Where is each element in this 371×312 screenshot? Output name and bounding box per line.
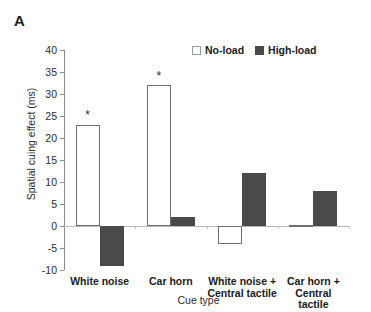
bar-no-load-group-2: [147, 85, 171, 226]
y-tick-label: 20: [45, 133, 57, 144]
y-tick-label: 25: [45, 111, 57, 122]
y-tick-mark: [60, 116, 64, 117]
significance-asterisk: *: [85, 109, 90, 121]
y-tick-label: 15: [45, 155, 57, 166]
y-tick-mark: [60, 204, 64, 205]
group-separator: [278, 226, 279, 229]
y-tick-mark: [60, 226, 64, 227]
group-separator: [349, 226, 350, 229]
y-tick-label: 30: [45, 89, 57, 100]
y-tick-mark: [60, 50, 64, 51]
y-axis-title: Spatial cuing effect (ms): [25, 49, 37, 239]
group-separator: [135, 226, 136, 229]
y-tick-mark: [60, 72, 64, 73]
y-tick-label: 5: [51, 199, 57, 210]
y-tick-mark: [60, 182, 64, 183]
y-axis-line: [64, 50, 65, 270]
y-tick-label: 35: [45, 67, 57, 78]
y-tick-mark: [60, 160, 64, 161]
bar-high-load-group-2: [171, 217, 195, 226]
bar-no-load-group-3: [218, 226, 242, 244]
y-tick-label: 40: [45, 45, 57, 56]
x-category-label-1: White noise: [70, 276, 129, 288]
y-tick-label: -10: [42, 265, 57, 276]
y-tick-label: 0: [51, 221, 57, 232]
significance-asterisk: *: [157, 70, 162, 82]
group-separator: [207, 226, 208, 229]
y-tick-mark: [60, 138, 64, 139]
y-tick-mark: [60, 270, 64, 271]
bar-no-load-group-4: [289, 225, 313, 227]
y-tick-label: -5: [48, 243, 57, 254]
y-tick-mark: [60, 248, 64, 249]
y-tick-mark: [60, 94, 64, 95]
panel-letter: A: [14, 12, 25, 29]
bar-high-load-group-3: [242, 173, 266, 226]
figure-panel-a: A Spatial cuing effect (ms) No-load High…: [0, 0, 371, 312]
y-tick-label: 10: [45, 177, 57, 188]
bar-high-load-group-1: [100, 226, 124, 266]
x-axis-title-text: Cue type: [177, 294, 219, 306]
bar-no-load-group-1: [76, 125, 100, 226]
plot-area: 4035302520151050-5-10 **: [64, 50, 349, 270]
bar-high-load-group-4: [313, 191, 337, 226]
x-axis-title: Cue type: [0, 294, 371, 306]
x-category-label-2: Car horn: [149, 276, 193, 288]
